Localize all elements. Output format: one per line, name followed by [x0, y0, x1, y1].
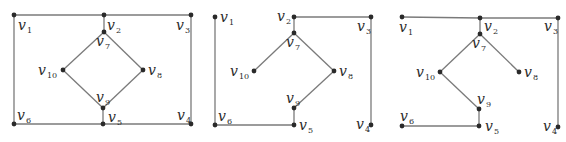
vertex-label-v4: v: [543, 118, 551, 134]
vertex-subscript-v2: 2: [493, 27, 498, 36]
vertex-label-v3: v: [176, 17, 184, 33]
vertex-label-v2: v: [107, 17, 115, 33]
vertex-label-v3: v: [357, 18, 365, 34]
vertex-v5: [101, 122, 106, 127]
vertex-label-v4: v: [177, 107, 185, 123]
vertex-subscript-v9: 9: [105, 98, 110, 107]
spanning-tree-1: v1v2v3v4v5v6v7v8v9v10: [213, 8, 374, 135]
vertex-subscript-v2: 2: [116, 26, 121, 35]
vertex-subscript-v1: 1: [229, 18, 234, 27]
vertex-subscript-v4: 4: [552, 127, 557, 136]
vertex-label-v7: v: [96, 33, 104, 49]
graph-figure: v1v2v3v4v5v6v7v8v9v10v1v2v3v4v5v6v7v8v9v…: [0, 0, 566, 142]
edge-v8-v7: [294, 33, 334, 71]
vertex-label-v1: v: [220, 9, 228, 25]
vertex-v8: [517, 70, 522, 75]
vertex-v1: [12, 13, 17, 18]
vertex-subscript-v6: 6: [26, 116, 31, 125]
vertex-label-v6: v: [400, 108, 408, 124]
vertex-v1: [213, 15, 218, 20]
vertex-subscript-v3: 3: [185, 26, 190, 35]
vertex-subscript-v8: 8: [348, 72, 353, 81]
vertex-v8: [141, 68, 146, 73]
edge-v1-v2: [402, 17, 480, 18]
vertex-label-v6: v: [218, 108, 226, 124]
vertex-label-v8: v: [148, 62, 156, 78]
vertex-subscript-v1: 1: [27, 26, 32, 35]
vertex-subscript-v9: 9: [295, 99, 300, 108]
vertex-label-v9: v: [286, 90, 294, 106]
vertex-v10: [61, 68, 66, 73]
vertex-v6: [213, 123, 218, 128]
vertex-v6: [12, 122, 17, 127]
edge-v7-v8: [480, 34, 519, 72]
vertex-subscript-v7: 7: [295, 43, 300, 52]
vertex-label-v5: v: [299, 117, 307, 133]
vertex-subscript-v6: 6: [409, 117, 414, 126]
vertex-v2: [292, 15, 297, 20]
vertex-subscript-v8: 8: [533, 73, 538, 82]
vertex-subscript-v4: 4: [365, 125, 370, 134]
vertex-label-v10: v: [416, 64, 424, 80]
vertex-v5: [292, 123, 297, 128]
vertex-subscript-v10: 10: [425, 73, 435, 82]
vertex-label-v7: v: [286, 34, 294, 50]
vertex-subscript-v4: 4: [186, 116, 191, 125]
vertex-subscript-v3: 3: [553, 27, 558, 36]
vertex-label-v9: v: [96, 89, 104, 105]
vertex-label-v2: v: [277, 8, 285, 24]
vertex-v2: [478, 16, 483, 21]
vertex-label-v10: v: [230, 63, 238, 79]
vertex-v10: [438, 70, 443, 75]
vertex-label-v4: v: [356, 116, 364, 132]
vertex-label-v9: v: [477, 91, 485, 107]
vertex-v5: [477, 124, 482, 129]
edge-v10-v9: [440, 72, 479, 109]
vertex-v10: [252, 69, 257, 74]
vertex-v3: [189, 13, 194, 18]
vertex-subscript-v1: 1: [408, 28, 413, 37]
vertex-label-v1: v: [18, 17, 26, 33]
vertex-subscript-v10: 10: [239, 72, 249, 81]
vertex-subscript-v5: 5: [308, 126, 313, 135]
vertex-subscript-v8: 8: [157, 71, 162, 80]
vertex-label-v8: v: [339, 63, 347, 79]
vertex-v2: [102, 13, 107, 18]
vertex-label-v3: v: [544, 18, 552, 34]
vertex-v3: [369, 15, 374, 20]
vertex-label-v8: v: [524, 64, 532, 80]
edge-v7-v8: [104, 32, 143, 70]
spanning-tree-2: v1v2v3v4v5v6v7v8v9v10: [399, 15, 560, 136]
vertex-label-v6: v: [17, 107, 25, 123]
vertex-subscript-v7: 7: [481, 44, 486, 53]
vertex-subscript-v5: 5: [117, 118, 122, 127]
vertex-subscript-v10: 10: [47, 71, 57, 80]
vertex-label-v1: v: [399, 19, 407, 35]
vertex-subscript-v2: 2: [286, 17, 291, 26]
graph-original: v1v2v3v4v5v6v7v8v9v10: [12, 13, 194, 127]
vertex-subscript-v7: 7: [105, 42, 110, 51]
vertex-label-v5: v: [485, 118, 493, 134]
vertex-v3: [556, 16, 561, 21]
vertex-v9: [477, 107, 482, 112]
vertex-subscript-v6: 6: [227, 117, 232, 126]
vertex-label-v7: v: [472, 35, 480, 51]
vertex-label-v5: v: [108, 109, 116, 125]
vertex-label-v2: v: [484, 18, 492, 34]
vertex-v8: [332, 69, 337, 74]
vertex-subscript-v5: 5: [494, 127, 499, 136]
vertex-label-v10: v: [38, 62, 46, 78]
vertex-subscript-v3: 3: [366, 27, 371, 36]
vertex-v6: [400, 124, 405, 129]
vertex-subscript-v9: 9: [486, 100, 491, 109]
